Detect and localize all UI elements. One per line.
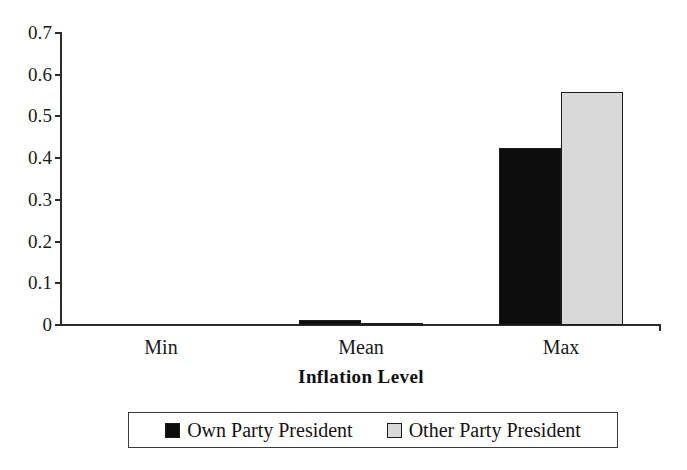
legend-label: Own Party President <box>187 419 353 441</box>
y-axis-tick-label: 0.3 <box>0 190 52 209</box>
y-axis-tick-mark <box>55 74 61 76</box>
y-axis-tick-mark <box>55 199 61 201</box>
x-axis-end-tick <box>659 325 661 331</box>
category-label-mean: Mean <box>261 335 461 359</box>
category-label-max: Max <box>461 335 661 359</box>
category-label-min: Min <box>61 335 261 359</box>
y-axis-tick-label: 0.5 <box>0 106 52 125</box>
y-axis-tick-labels: 0.70.60.50.40.30.20.10 <box>0 0 52 470</box>
gray-square-icon <box>387 423 402 438</box>
legend-label: Other Party President <box>409 419 581 441</box>
y-axis-tick-mark <box>55 115 61 117</box>
chart-legend: Own Party President Other Party Presiden… <box>128 412 618 448</box>
bar-max-other <box>561 92 623 325</box>
legend-item-other-party-president: Other Party President <box>387 419 581 441</box>
legend-item-own-party-president: Own Party President <box>165 419 353 441</box>
x-axis-title: Inflation Level <box>61 365 661 389</box>
y-axis-tick-mark <box>55 241 61 243</box>
y-axis-tick-label: 0.2 <box>0 232 52 251</box>
y-axis-tick-label: 0.1 <box>0 273 52 292</box>
y-axis-tick-mark <box>55 157 61 159</box>
bar-mean-own <box>299 320 361 325</box>
y-axis-tick-label: 0.4 <box>0 148 52 167</box>
y-axis-tick-label: 0.7 <box>0 23 52 42</box>
chart-figure: 0.70.60.50.40.30.20.10 MinMeanMax Inflat… <box>0 0 687 470</box>
bars-layer <box>61 33 661 325</box>
y-axis-tick-label: 0 <box>0 315 52 334</box>
bar-mean-other <box>361 323 423 325</box>
y-axis-tick-mark <box>55 32 61 34</box>
black-square-icon <box>165 423 180 438</box>
x-axis-category-labels: MinMeanMax <box>61 335 661 363</box>
bar-max-own <box>499 148 561 325</box>
y-axis-tick-mark <box>55 282 61 284</box>
y-axis-tick-label: 0.6 <box>0 65 52 84</box>
y-axis-tick-mark <box>55 324 61 326</box>
